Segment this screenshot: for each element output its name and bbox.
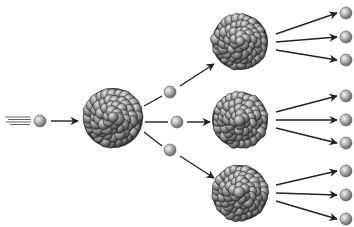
second-gen-neutron-1 — [340, 7, 352, 19]
central-nucleus — [83, 88, 143, 148]
second-gen-neutron-8 — [340, 189, 352, 201]
second-gen-neutron-7 — [340, 165, 352, 177]
first-gen-neutron-3 — [164, 144, 176, 156]
second-gen-neutron-9 — [340, 213, 352, 225]
second-gen-neutron-6 — [340, 137, 352, 149]
arrow-from-nucleus-3-1 — [276, 171, 337, 185]
second-gen-nucleus-3 — [212, 165, 269, 222]
diagram-canvas — [0, 0, 354, 227]
arrow-from-nucleus-1-2 — [276, 37, 337, 42]
second-gen-neutron-4 — [340, 90, 352, 102]
first-gen-neutron-1 — [164, 86, 176, 98]
arrow-from-nucleus-2-1 — [276, 96, 337, 112]
incoming-neutron — [34, 115, 46, 127]
arrow-to-nucleus-top — [180, 64, 214, 86]
line-to-neutron-bottom — [144, 132, 162, 146]
arrow-to-nucleus-bottom — [180, 156, 214, 178]
arrow-from-nucleus-3-2 — [276, 193, 337, 195]
second-gen-neutron-2 — [340, 31, 352, 43]
speed-lines-icon — [5, 117, 31, 125]
first-gen-neutron-2 — [171, 116, 183, 128]
second-gen-nucleus-2 — [212, 91, 268, 148]
line-to-neutron-top — [144, 96, 162, 106]
second-gen-neutron-5 — [340, 114, 352, 126]
chain-reaction-diagram — [0, 0, 354, 227]
second-gen-nucleus-1 — [210, 13, 268, 70]
arrow-from-nucleus-1-1 — [276, 13, 337, 34]
arrow-from-nucleus-3-3 — [276, 201, 337, 219]
arrow-from-nucleus-2-3 — [276, 128, 337, 143]
arrow-from-nucleus-1-3 — [276, 50, 337, 60]
second-gen-neutron-3 — [340, 54, 352, 66]
